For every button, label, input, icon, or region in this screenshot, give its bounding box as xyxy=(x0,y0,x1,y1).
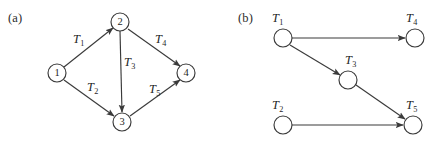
node-label-T3: T3 xyxy=(345,54,356,67)
edge-label-T3: T3 xyxy=(124,56,135,69)
edge-label-T5: T5 xyxy=(149,83,160,96)
panel-label-a: (a) xyxy=(8,11,22,26)
node-2-text: 2 xyxy=(114,17,126,28)
node-T1 xyxy=(274,29,292,47)
node-label-T1: T1 xyxy=(272,12,283,25)
node-label-T4: T4 xyxy=(406,12,417,25)
node-T4 xyxy=(406,29,424,47)
diagram-svg xyxy=(0,0,435,145)
edge-label-T1: T1 xyxy=(73,33,84,46)
nodes-layer xyxy=(48,13,424,134)
node-T5 xyxy=(404,116,422,134)
node-T2 xyxy=(274,116,292,134)
node-label-T5: T5 xyxy=(406,99,417,112)
edge-1-2 xyxy=(64,28,113,67)
node-1-text: 1 xyxy=(51,68,63,79)
figure-container: (a) (b) T1T2T3T4T51234T1T4T3T2T5 xyxy=(0,0,435,145)
edge-2-4 xyxy=(128,29,180,66)
edge-label-T2: T2 xyxy=(87,81,98,94)
node-T3 xyxy=(339,71,357,89)
edge-T3-T5 xyxy=(356,85,405,119)
edge-2-3 xyxy=(120,31,122,112)
panel-label-b: (b) xyxy=(238,11,253,26)
edge-T1-T3 xyxy=(290,45,340,75)
edge-label-T4: T4 xyxy=(155,33,166,46)
node-4-text: 4 xyxy=(180,68,192,79)
node-3-text: 3 xyxy=(116,117,128,128)
node-label-T2: T2 xyxy=(272,99,283,112)
